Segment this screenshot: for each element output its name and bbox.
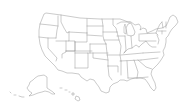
hawaii-inset bbox=[60, 88, 80, 101]
alaska-inset bbox=[10, 75, 55, 97]
hawaii-maui bbox=[72, 93, 74, 95]
hawaii-big-island bbox=[75, 96, 80, 101]
alaska bbox=[27, 75, 55, 96]
us-states-map bbox=[0, 0, 193, 110]
us-outline bbox=[39, 13, 178, 93]
contiguous-us bbox=[39, 13, 178, 93]
